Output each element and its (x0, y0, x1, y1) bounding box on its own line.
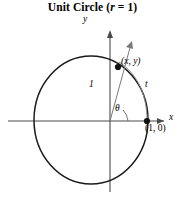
angle-theta-label: θ (115, 104, 120, 114)
terminal-ray-arrowhead (126, 41, 133, 49)
arc-length-label: t (145, 80, 148, 90)
unit-circle-curve (34, 56, 148, 184)
unit-circle-figure: Unit Circle (r = 1) (x, y) 1 t θ x y (1,… (0, 0, 185, 200)
point-one-zero-label: (1, 0) (145, 124, 166, 134)
y-axis-label: y (83, 15, 87, 25)
angle-theta-arc (123, 110, 128, 121)
point-xy-label: (x, y) (121, 57, 141, 67)
radius-length-label: 1 (89, 80, 94, 90)
x-axis-label: x (169, 113, 173, 123)
unit-circle-diagram (0, 0, 185, 200)
y-axis-arrowhead (107, 30, 113, 38)
